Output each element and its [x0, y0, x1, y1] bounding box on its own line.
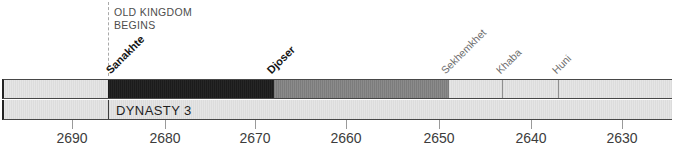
tick-2680	[165, 120, 166, 129]
tick-2640	[531, 120, 532, 129]
old-kingdom-line2: BEGINS	[114, 19, 192, 32]
segment-sanakhte	[108, 80, 274, 98]
dynasty3-timeline: OLD KINGDOM BEGINS Sanakhte Djoser Sekhe…	[0, 0, 675, 164]
old-kingdom-begins-label: OLD KINGDOM BEGINS	[114, 6, 192, 32]
reign-label-huni: Huni	[550, 52, 574, 76]
tick-2630	[622, 120, 623, 129]
reign-label-sanakhte: Sanakhte	[104, 33, 147, 76]
tick-2670	[255, 120, 256, 129]
reign-bar	[2, 79, 672, 99]
segment-djoser	[274, 80, 449, 98]
tick-2660	[346, 120, 347, 129]
segment-pre-dynasty	[4, 80, 108, 98]
tick-2690	[72, 120, 73, 129]
segment-huni	[558, 80, 672, 98]
reign-label-khaba: Khaba	[494, 46, 524, 76]
tick-label-2660: 2660	[314, 130, 378, 146]
segment-sekhemkhet	[449, 80, 502, 98]
tick-label-2680: 2680	[133, 130, 197, 146]
reign-label-sekhemkhet: Sekhemkhet	[439, 26, 489, 76]
tick-2650	[439, 120, 440, 129]
tick-label-2690: 2690	[40, 130, 104, 146]
divider-khaba-huni	[558, 80, 559, 98]
reign-label-djoser: Djoser	[265, 43, 298, 76]
dynasty3-start-divider	[108, 100, 109, 119]
tick-label-2640: 2640	[499, 130, 563, 146]
tick-label-2670: 2670	[223, 130, 287, 146]
dynasty-bar: DYNASTY 3	[2, 100, 672, 120]
segment-khaba	[502, 80, 558, 98]
tick-label-2630: 2630	[590, 130, 654, 146]
divider-sekhemkhet-khaba	[502, 80, 503, 98]
dynasty3-label: DYNASTY 3	[116, 102, 192, 117]
tick-label-2650: 2650	[407, 130, 471, 146]
old-kingdom-line1: OLD KINGDOM	[114, 6, 192, 19]
